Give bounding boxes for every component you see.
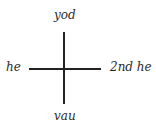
label-left: he xyxy=(6,61,21,73)
label-top: yod xyxy=(54,9,76,21)
horizontal-line xyxy=(29,68,101,70)
label-bottom: vau xyxy=(54,110,76,122)
label-right: 2nd he xyxy=(110,61,152,73)
